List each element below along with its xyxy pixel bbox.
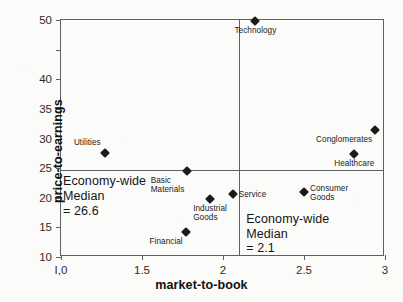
- x-axis-tick-label: I,0: [55, 264, 68, 276]
- x-axis-tick: [223, 255, 224, 260]
- data-point-marker[interactable]: [100, 148, 110, 158]
- y-axis-tick: [56, 20, 61, 21]
- x-axis-tick: [304, 255, 305, 260]
- data-point-marker[interactable]: [349, 150, 359, 160]
- plot-area: 5040353025201510I,01.522.53Economy-wide …: [60, 19, 384, 256]
- y-axis-tick-label: 15: [39, 221, 52, 233]
- x-axis-tick: [61, 255, 62, 260]
- data-point-label: Basic Materials: [151, 176, 185, 195]
- y-axis-tick-label: 10: [39, 251, 52, 263]
- data-point-marker[interactable]: [228, 189, 238, 199]
- data-point-marker[interactable]: [250, 16, 260, 26]
- y-axis-tick: [56, 79, 61, 80]
- y-axis-title: price-to-earnings: [51, 99, 65, 203]
- data-point-label: Industrial Goods: [193, 204, 227, 223]
- y-axis-tick-label: 50: [39, 14, 52, 26]
- x-axis-tick-label: 1.5: [134, 264, 150, 276]
- x-axis-tick-label: 3: [382, 264, 388, 276]
- annotation-mb-median: Economy-wide Median = 2.1: [246, 212, 329, 256]
- data-point-label: Technology: [234, 26, 276, 35]
- x-axis-tick-label: 2: [220, 264, 226, 276]
- data-point-label: Conglomerates: [316, 135, 372, 144]
- x-axis-title: market-to-book: [0, 278, 403, 292]
- y-axis-tick: [56, 50, 61, 51]
- y-axis-tick: [56, 227, 61, 228]
- data-point-label: Consumer Goods: [310, 184, 348, 203]
- median-line-vertical: [239, 20, 240, 255]
- annotation-pe-median: Economy-wide Median = 26.6: [63, 174, 146, 218]
- median-line-horizontal: [61, 170, 383, 171]
- y-axis-tick-label: 40: [39, 73, 52, 85]
- data-point-marker[interactable]: [182, 166, 192, 176]
- data-point-marker[interactable]: [299, 187, 309, 197]
- data-point-label: Financial: [150, 237, 183, 246]
- scatter-chart: 5040353025201510I,01.522.53Economy-wide …: [0, 0, 403, 302]
- x-axis-tick: [385, 255, 386, 260]
- data-point-label: Service: [239, 190, 267, 199]
- x-axis-tick: [142, 255, 143, 260]
- data-point-marker[interactable]: [370, 125, 380, 135]
- data-point-label: Utilities: [74, 138, 101, 147]
- data-point-marker[interactable]: [181, 227, 191, 237]
- x-axis-tick-label: 2.5: [296, 264, 312, 276]
- data-point-label: Healthcare: [334, 159, 374, 168]
- data-point-marker[interactable]: [205, 194, 215, 204]
